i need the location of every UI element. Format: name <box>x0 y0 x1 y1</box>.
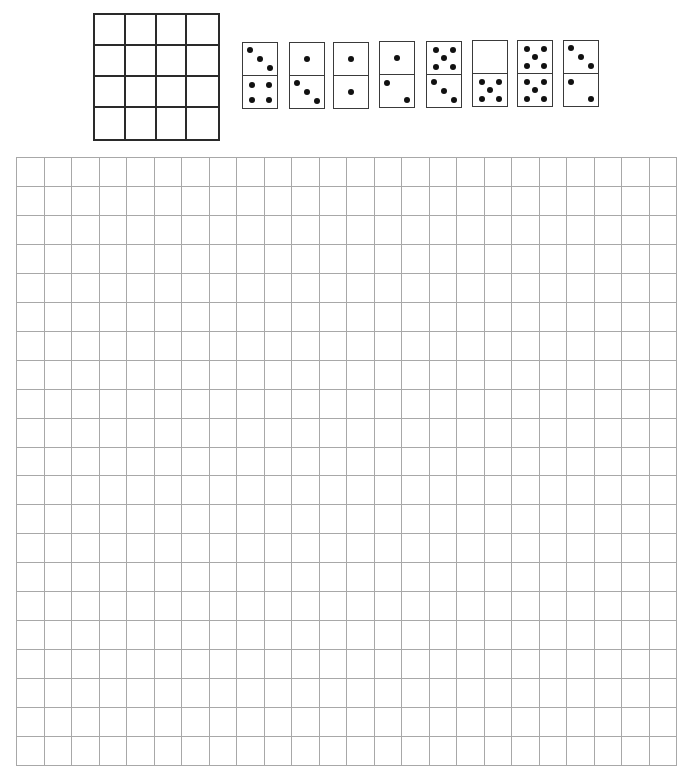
board-cell[interactable] <box>650 390 678 419</box>
board-cell[interactable] <box>567 679 595 708</box>
board-cell[interactable] <box>265 476 293 505</box>
board-cell[interactable] <box>622 448 650 477</box>
board-cell[interactable] <box>237 361 265 390</box>
board-cell[interactable] <box>402 534 430 563</box>
board-cell[interactable] <box>540 563 568 592</box>
board-cell[interactable] <box>155 245 183 274</box>
domino-4-1-2[interactable] <box>379 41 415 108</box>
board-cell[interactable] <box>622 708 650 737</box>
board-cell[interactable] <box>430 679 458 708</box>
board-cell[interactable] <box>567 245 595 274</box>
board-cell[interactable] <box>485 476 513 505</box>
board-cell[interactable] <box>320 187 348 216</box>
board-cell[interactable] <box>100 448 128 477</box>
board-cell[interactable] <box>622 679 650 708</box>
board-cell[interactable] <box>320 679 348 708</box>
board-cell[interactable] <box>595 332 623 361</box>
board-cell[interactable] <box>512 361 540 390</box>
board-cell[interactable] <box>210 390 238 419</box>
board-cell[interactable] <box>595 592 623 621</box>
board-cell[interactable] <box>210 505 238 534</box>
board-cell[interactable] <box>45 216 73 245</box>
board-cell[interactable] <box>622 534 650 563</box>
board-cell[interactable] <box>457 332 485 361</box>
board-cell[interactable] <box>72 737 100 766</box>
target-cell[interactable] <box>95 15 126 46</box>
board-cell[interactable] <box>155 708 183 737</box>
board-cell[interactable] <box>540 505 568 534</box>
board-cell[interactable] <box>320 708 348 737</box>
board-cell[interactable] <box>375 332 403 361</box>
board-cell[interactable] <box>292 419 320 448</box>
board-cell[interactable] <box>210 650 238 679</box>
board-cell[interactable] <box>540 187 568 216</box>
board-cell[interactable] <box>567 448 595 477</box>
board-cell[interactable] <box>45 534 73 563</box>
board-cell[interactable] <box>650 534 678 563</box>
board-cell[interactable] <box>320 274 348 303</box>
board-cell[interactable] <box>155 332 183 361</box>
board-cell[interactable] <box>45 187 73 216</box>
board-cell[interactable] <box>402 505 430 534</box>
board-cell[interactable] <box>155 563 183 592</box>
board-cell[interactable] <box>595 505 623 534</box>
target-cell[interactable] <box>126 15 157 46</box>
board-cell[interactable] <box>622 216 650 245</box>
board-cell[interactable] <box>45 476 73 505</box>
board-cell[interactable] <box>567 187 595 216</box>
board-cell[interactable] <box>430 534 458 563</box>
board-cell[interactable] <box>402 679 430 708</box>
board-cell[interactable] <box>512 448 540 477</box>
board-cell[interactable] <box>127 390 155 419</box>
board-cell[interactable] <box>457 534 485 563</box>
board-cell[interactable] <box>347 505 375 534</box>
board-cell[interactable] <box>45 563 73 592</box>
board-cell[interactable] <box>485 303 513 332</box>
board-cell[interactable] <box>237 390 265 419</box>
board-cell[interactable] <box>320 563 348 592</box>
board-cell[interactable] <box>237 419 265 448</box>
board-cell[interactable] <box>375 650 403 679</box>
board-cell[interactable] <box>595 158 623 187</box>
board-cell[interactable] <box>540 621 568 650</box>
board-cell[interactable] <box>622 361 650 390</box>
board-cell[interactable] <box>182 332 210 361</box>
board-cell[interactable] <box>540 361 568 390</box>
board-cell[interactable] <box>347 419 375 448</box>
board-cell[interactable] <box>127 332 155 361</box>
board-cell[interactable] <box>457 621 485 650</box>
domino-3-1-1[interactable] <box>333 42 369 109</box>
board-cell[interactable] <box>320 534 348 563</box>
board-cell[interactable] <box>182 476 210 505</box>
board-cell[interactable] <box>17 158 45 187</box>
board-cell[interactable] <box>457 303 485 332</box>
board-cell[interactable] <box>17 448 45 477</box>
board-cell[interactable] <box>650 708 678 737</box>
board-cell[interactable] <box>127 448 155 477</box>
board-cell[interactable] <box>540 679 568 708</box>
game-board[interactable] <box>16 157 677 766</box>
board-cell[interactable] <box>237 448 265 477</box>
board-cell[interactable] <box>402 158 430 187</box>
board-cell[interactable] <box>292 679 320 708</box>
board-cell[interactable] <box>100 592 128 621</box>
board-cell[interactable] <box>650 563 678 592</box>
board-cell[interactable] <box>265 621 293 650</box>
board-cell[interactable] <box>155 303 183 332</box>
board-cell[interactable] <box>567 534 595 563</box>
board-cell[interactable] <box>540 158 568 187</box>
board-cell[interactable] <box>127 476 155 505</box>
board-cell[interactable] <box>265 650 293 679</box>
board-cell[interactable] <box>567 650 595 679</box>
board-cell[interactable] <box>17 245 45 274</box>
board-cell[interactable] <box>567 216 595 245</box>
board-cell[interactable] <box>540 216 568 245</box>
board-cell[interactable] <box>127 216 155 245</box>
board-cell[interactable] <box>127 505 155 534</box>
board-cell[interactable] <box>265 737 293 766</box>
board-cell[interactable] <box>210 679 238 708</box>
board-cell[interactable] <box>265 216 293 245</box>
board-cell[interactable] <box>100 621 128 650</box>
board-cell[interactable] <box>155 534 183 563</box>
board-cell[interactable] <box>347 534 375 563</box>
